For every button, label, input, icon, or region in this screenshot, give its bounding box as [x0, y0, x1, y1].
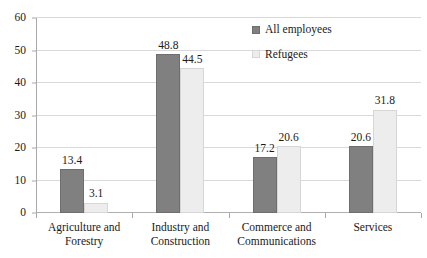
bar-value-label: 31.8 — [375, 95, 395, 107]
bar[interactable] — [253, 157, 277, 213]
bar-value-label: 20.6 — [279, 132, 299, 144]
y-axis-tick-label: 40 — [0, 77, 26, 89]
bar[interactable] — [156, 54, 180, 213]
bar-value-label: 48.8 — [158, 40, 178, 52]
bar-group: 13.43.1 — [36, 18, 132, 213]
bar[interactable] — [180, 68, 204, 213]
bar-value-label: 20.6 — [351, 132, 371, 144]
bar-slot: 3.1 — [84, 18, 108, 213]
category-tick-marks — [36, 213, 421, 218]
bar-value-label: 13.4 — [62, 155, 82, 167]
category-tick-mark — [325, 213, 326, 218]
legend-swatch-icon — [252, 50, 260, 58]
category-label-line: Construction — [132, 234, 228, 248]
y-axis-tick-label: 20 — [0, 142, 26, 154]
bar-pair: 13.43.1 — [36, 18, 132, 213]
bar[interactable] — [277, 146, 301, 213]
y-axis-tick-label: 10 — [0, 175, 26, 187]
category-label: Services — [325, 220, 421, 248]
category-label: Agriculture andForestry — [36, 220, 132, 248]
category-label: Industry andConstruction — [132, 220, 228, 248]
bar-group: 48.844.5 — [132, 18, 228, 213]
category-tick-mark — [132, 213, 133, 218]
legend-item[interactable]: All employees — [252, 24, 392, 36]
y-axis-tick-label: 60 — [0, 12, 26, 24]
category-axis-labels: Agriculture andForestryIndustry andConst… — [36, 220, 421, 248]
y-axis-tick-label: 50 — [0, 45, 26, 57]
category-label-line: Commerce and — [229, 220, 325, 234]
legend-label: Refugees — [265, 49, 308, 61]
y-axis-tick-label: 0 — [0, 207, 26, 219]
category-label-line: Industry and — [132, 220, 228, 234]
chart-legend: All employeesRefugees — [252, 24, 392, 73]
bar-chart: 0102030405060 13.43.148.844.517.220.620.… — [0, 0, 427, 258]
legend-item[interactable]: Refugees — [252, 49, 392, 61]
bar[interactable] — [60, 169, 84, 213]
bar[interactable] — [84, 203, 108, 213]
bar-slot: 13.4 — [60, 18, 84, 213]
bar[interactable] — [373, 110, 397, 213]
bar-slot: 48.8 — [156, 18, 180, 213]
y-axis-tick-labels: 0102030405060 — [0, 18, 32, 213]
category-label-line: Communications — [229, 234, 325, 248]
bar-value-label: 44.5 — [182, 54, 202, 66]
category-tick-mark — [36, 213, 37, 218]
legend-label: All employees — [265, 24, 332, 36]
category-label-line: Services — [325, 220, 421, 234]
bar-slot: 44.5 — [180, 18, 204, 213]
bar[interactable] — [349, 146, 373, 213]
category-tick-mark — [229, 213, 230, 218]
category-label: Commerce andCommunications — [229, 220, 325, 248]
bar-value-label: 3.1 — [89, 188, 103, 200]
bar-pair: 48.844.5 — [132, 18, 228, 213]
bar-value-label: 17.2 — [255, 143, 275, 155]
category-tick-mark — [421, 213, 422, 218]
category-label-line: Forestry — [36, 234, 132, 248]
y-axis-tick-label: 30 — [0, 110, 26, 122]
category-label-line: Agriculture and — [36, 220, 132, 234]
legend-swatch-icon — [252, 26, 260, 34]
